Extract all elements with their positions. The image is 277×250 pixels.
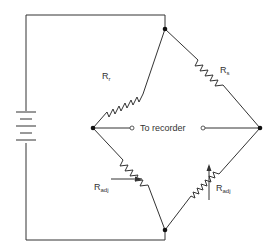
variable-resistor-left <box>93 128 165 230</box>
node-left <box>91 126 96 131</box>
node-right <box>258 126 263 131</box>
to-recorder-label: To recorder <box>140 123 186 133</box>
label-radj-left: Radj <box>94 182 109 193</box>
right-terminal <box>201 126 205 130</box>
top-supply-wire <box>26 15 165 111</box>
label-rr: Rr <box>102 71 111 82</box>
resistor-rs <box>165 29 260 128</box>
label-radj-right: Radj <box>216 183 231 194</box>
left-terminal <box>130 126 134 130</box>
label-rs: Rs <box>220 65 230 76</box>
wheatstone-bridge-diagram: Rr Rs Radj Radj To recorder <box>0 0 277 250</box>
node-top <box>163 27 168 32</box>
node-bottom <box>163 228 168 233</box>
arrow-up-icon <box>207 164 212 171</box>
variable-resistor-right <box>165 128 260 230</box>
battery-icon <box>16 112 36 140</box>
